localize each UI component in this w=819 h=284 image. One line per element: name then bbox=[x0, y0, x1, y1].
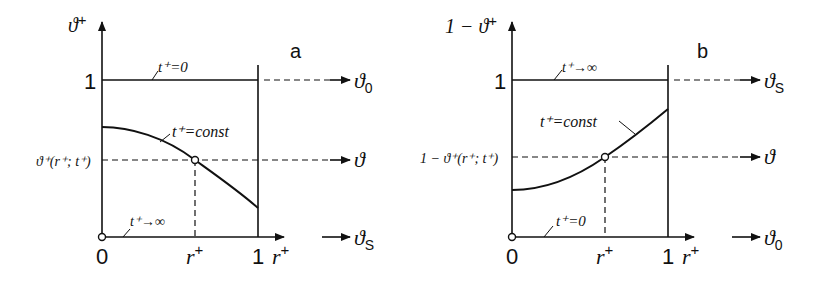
origin-point bbox=[509, 234, 516, 241]
x-tick-zero: 0 bbox=[96, 244, 108, 269]
bottom-line-label: t⁺=0 bbox=[556, 213, 586, 229]
top-line-label: t⁺=0 bbox=[158, 59, 188, 75]
panel-label: b bbox=[697, 40, 708, 62]
leader-line bbox=[123, 229, 130, 237]
x-axis-label: r+ bbox=[682, 241, 700, 269]
panel-b: b 1 − ϑ+ 1 0 1 r+ r+ 1 − ϑ⁺(r⁺; t⁺) t⁺→∞… bbox=[420, 12, 784, 269]
marker-point bbox=[192, 157, 199, 164]
right-label-bottom: ϑS bbox=[354, 225, 374, 253]
y-axis-label: 1 − ϑ+ bbox=[445, 12, 497, 37]
x-tick-one: 1 bbox=[252, 244, 264, 269]
top-line-label: t⁺→∞ bbox=[562, 60, 597, 75]
panel-a: a ϑ+ 1 0 1 r+ r+ ϑ⁺(r⁺; t⁺) t⁺=0 t⁺=cons… bbox=[36, 11, 374, 269]
right-label-middle: ϑ bbox=[354, 147, 366, 172]
x-tick-zero: 0 bbox=[506, 244, 518, 269]
leader-line bbox=[544, 226, 553, 237]
origin-point bbox=[99, 234, 106, 241]
diagram-canvas: a ϑ+ 1 0 1 r+ r+ ϑ⁺(r⁺; t⁺) t⁺=0 t⁺=cons… bbox=[0, 0, 819, 284]
r-marker-label: r+ bbox=[186, 241, 204, 269]
marker-point bbox=[602, 154, 609, 161]
right-label-top: ϑ0 bbox=[354, 68, 373, 96]
x-tick-one: 1 bbox=[662, 244, 674, 269]
curve-label: t⁺=const bbox=[540, 113, 598, 130]
right-label-bottom: ϑ0 bbox=[764, 225, 783, 253]
x-axis-label: r+ bbox=[272, 241, 290, 269]
curve-label: t⁺=const bbox=[172, 123, 230, 140]
right-label-middle: ϑ bbox=[764, 144, 776, 169]
r-marker-label: r+ bbox=[596, 241, 614, 269]
y-tick-one: 1 bbox=[494, 69, 506, 94]
y-marker-label: ϑ⁺(r⁺; t⁺) bbox=[36, 154, 91, 170]
y-axis-label: ϑ+ bbox=[68, 11, 87, 36]
leader-line bbox=[554, 70, 562, 80]
y-tick-one: 1 bbox=[84, 69, 96, 94]
y-marker-label: 1 − ϑ⁺(r⁺; t⁺) bbox=[420, 151, 498, 167]
panel-label: a bbox=[290, 40, 302, 62]
leader-line bbox=[619, 121, 635, 134]
right-label-top: ϑS bbox=[764, 68, 784, 96]
bottom-line-label: t⁺→∞ bbox=[130, 214, 165, 229]
